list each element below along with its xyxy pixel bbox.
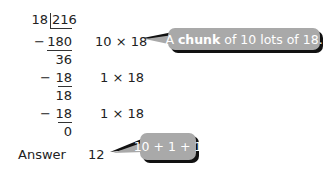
dividend: 216 (52, 12, 77, 27)
chunk-note-1: 10 × 18 (95, 34, 147, 49)
subtrahend-1: 180 (45, 34, 72, 49)
chunk-callout: A chunk of 10 lots of 18. (168, 28, 320, 50)
division-bracket-vertical (50, 13, 51, 28)
chunk-callout-suffix: of 10 lots of 18. (220, 32, 322, 47)
underline-1 (47, 50, 72, 51)
underline-3 (58, 122, 72, 123)
remainder-1: 36 (45, 52, 72, 67)
division-bracket-horizontal (50, 28, 72, 29)
sum-callout: 10 + 1 + 1 (140, 133, 196, 160)
underline-2 (58, 86, 72, 87)
divisor: 18 (26, 12, 48, 27)
sum-callout-text: 10 + 1 + 1 (134, 139, 203, 154)
remainder-2: 18 (45, 88, 72, 103)
minus-sign: − (34, 34, 45, 49)
answer-label: Answer (18, 147, 66, 162)
answer-value: 12 (88, 147, 105, 162)
chunk-callout-prefix: A (165, 32, 178, 47)
subtrahend-2: 18 (45, 70, 72, 85)
chunk-note-3: 1 × 18 (100, 106, 144, 121)
remainder-final: 0 (45, 124, 72, 139)
subtrahend-3: 18 (45, 106, 72, 121)
chunk-note-2: 1 × 18 (100, 70, 144, 85)
chunk-callout-keyword: chunk (178, 32, 220, 47)
